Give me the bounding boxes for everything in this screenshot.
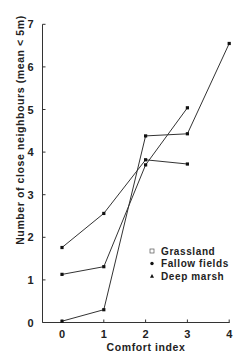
data-point-marker [60, 246, 63, 249]
legend-label: Grassland [161, 246, 215, 257]
y-tick-label: 4 [27, 146, 34, 158]
y-tick-label: 1 [27, 274, 33, 286]
legend-label: Fallow fields [161, 258, 229, 269]
data-point-marker [60, 320, 63, 323]
series-deep-marsh [60, 158, 189, 249]
y-tick-label: 6 [27, 61, 33, 73]
filled-triangle-icon [150, 274, 154, 278]
data-point-marker [60, 273, 63, 276]
data-point-marker [186, 162, 189, 165]
line-chart: 0123456701234 Comfort index Number of cl… [0, 0, 245, 364]
data-point-marker [144, 134, 147, 137]
data-point-marker [186, 132, 189, 135]
data-point-marker [144, 163, 147, 166]
legend-item: Fallow fields [150, 258, 229, 269]
y-tick-label: 3 [27, 189, 33, 201]
y-axis-title: Number of close neighbours (mean < 5m) [14, 15, 26, 245]
series-line [62, 160, 187, 248]
x-axis-title: Comfort index [107, 341, 186, 353]
x-tick-label: 1 [101, 328, 107, 340]
data-point-marker [186, 106, 189, 109]
filled-circle-icon [150, 262, 153, 265]
x-tick-label: 0 [59, 328, 65, 340]
data-point-marker [102, 212, 105, 215]
data-point-marker [102, 265, 105, 268]
data-point-marker [102, 308, 105, 311]
y-tick-label: 0 [27, 317, 33, 329]
legend: GrasslandFallow fieldsDeep marsh [150, 246, 229, 282]
legend-item: Deep marsh [150, 271, 224, 282]
x-tick-label: 2 [143, 328, 149, 340]
x-tick-label: 4 [226, 328, 233, 340]
y-tick-label: 7 [27, 18, 33, 30]
open-square-icon [150, 249, 154, 253]
legend-item: Grassland [150, 246, 215, 257]
data-point-marker [144, 158, 147, 161]
y-tick-label: 2 [27, 231, 33, 243]
x-tick-label: 3 [184, 328, 190, 340]
y-tick-label: 5 [27, 104, 33, 116]
legend-label: Deep marsh [161, 271, 224, 282]
data-point-marker [228, 42, 231, 45]
